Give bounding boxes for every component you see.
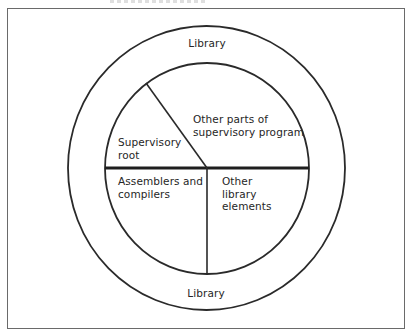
other-supervisory-label: Other parts of supervisory program [193, 113, 304, 138]
library-bottom-text: Library [175, 287, 237, 300]
library-top-text: Library [176, 37, 238, 50]
assemblers-line-2: compilers [118, 188, 203, 201]
supervisory-root-label: Supervisory root [118, 136, 181, 161]
other-library-line-1: Other [222, 175, 272, 188]
library-label-bottom: Library [175, 287, 237, 300]
supervisory-root-line-1: Supervisory [118, 136, 181, 149]
supervisory-root-line-2: root [118, 149, 181, 162]
other-library-label: Other library elements [222, 175, 272, 213]
other-library-line-3: elements [222, 200, 272, 213]
other-supervisory-line-1: Other parts of [193, 113, 304, 126]
assemblers-compilers-label: Assemblers and compilers [118, 175, 203, 200]
other-library-line-2: library [222, 188, 272, 201]
assemblers-line-1: Assemblers and [118, 175, 203, 188]
library-label-top: Library [176, 37, 238, 50]
memory-layout-diagram [0, 0, 413, 335]
other-supervisory-line-2: supervisory program [193, 126, 304, 139]
